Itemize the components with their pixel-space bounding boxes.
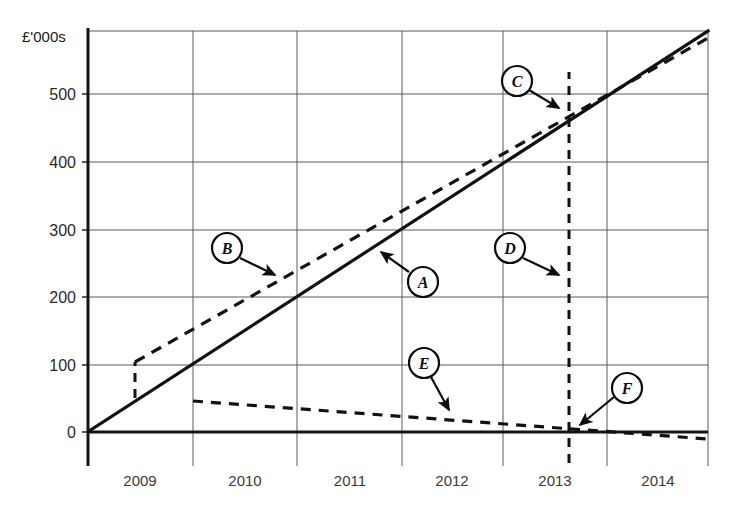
ytick-label-200: 200: [49, 289, 76, 306]
ytick-label-0: 0: [67, 424, 76, 441]
xtick-label-2013: 2013: [538, 472, 571, 489]
xtick-label-2010: 2010: [228, 472, 261, 489]
callout-c-label: C: [512, 73, 523, 90]
ytick-label-300: 300: [49, 222, 76, 239]
ytick-label-100: 100: [49, 357, 76, 374]
xtick-label-2009: 2009: [123, 472, 156, 489]
xtick-label-2014: 2014: [641, 472, 674, 489]
callout-b-label: B: [221, 240, 233, 257]
xtick-label-2012: 2012: [435, 472, 468, 489]
callout-a-label: A: [417, 274, 429, 291]
callout-f-label: F: [621, 380, 633, 397]
callout-d-label: D: [503, 240, 516, 257]
ytick-label-400: 400: [49, 154, 76, 171]
line-chart: 500 400 300 200 100 0 £'000s 2009 2010 2…: [0, 0, 734, 520]
chart-container: 500 400 300 200 100 0 £'000s 2009 2010 2…: [0, 0, 734, 520]
y-axis-unit-label: £'000s: [22, 28, 66, 45]
ytick-label-500: 500: [49, 86, 76, 103]
xtick-label-2011: 2011: [334, 472, 366, 489]
callout-e-label: E: [418, 355, 430, 372]
